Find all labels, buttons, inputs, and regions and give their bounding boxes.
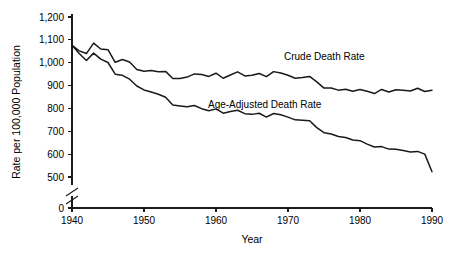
y-axis-tick-label: 1,200 — [39, 12, 64, 23]
series-label-age-adjusted-death-rate: Age-Adjusted Death Rate — [208, 99, 322, 110]
y-axis-tick-label: 800 — [47, 103, 64, 114]
x-axis-title: Year — [241, 233, 263, 245]
y-axis-tick-label: 0 — [58, 203, 64, 214]
y-axis-tick-label: 500 — [47, 172, 64, 183]
x-axis-tick-label: 1940 — [61, 215, 84, 226]
y-axis-tick-label: 600 — [47, 149, 64, 160]
x-axis-tick-label: 1980 — [349, 215, 372, 226]
y-axis-tick-label: 1,100 — [39, 34, 64, 45]
y-axis-tick-group: 05006007008009001,0001,1001,200 — [39, 12, 72, 214]
x-axis-tick-label: 1960 — [205, 215, 228, 226]
series-label-crude-death-rate: Crude Death Rate — [284, 51, 365, 62]
y-axis-tick-label: 1,000 — [39, 57, 64, 68]
series-line-crude-death-rate — [72, 43, 432, 94]
x-axis-tick-group: 194019501960197019801990 — [61, 208, 444, 226]
y-axis-tick-label: 700 — [47, 126, 64, 137]
x-axis-tick-label: 1990 — [421, 215, 444, 226]
x-axis-tick-label: 1970 — [277, 215, 300, 226]
death-rate-line-chart: 05006007008009001,0001,1001,200 19401950… — [0, 0, 453, 260]
y-axis-title: Rate per 100,000 Population — [10, 45, 22, 179]
y-axis-tick-label: 900 — [47, 80, 64, 91]
x-axis-tick-label: 1950 — [133, 215, 156, 226]
chart-canvas: 05006007008009001,0001,1001,200 19401950… — [0, 0, 453, 260]
